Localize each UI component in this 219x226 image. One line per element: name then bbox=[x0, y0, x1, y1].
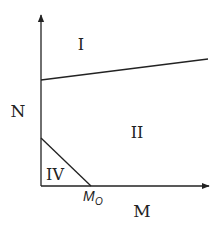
x-intercept-label-main: M bbox=[83, 188, 95, 204]
x-axis-label: M bbox=[133, 201, 150, 221]
boundary-line-I-II bbox=[41, 59, 208, 80]
phase-diagram: I II IV N M M O bbox=[0, 0, 219, 226]
x-intercept-label-sub: O bbox=[95, 196, 103, 207]
y-axis-label: N bbox=[11, 101, 26, 121]
region-label-I: I bbox=[78, 35, 84, 54]
region-label-II: II bbox=[131, 123, 144, 142]
region-label-IV: IV bbox=[46, 165, 64, 184]
